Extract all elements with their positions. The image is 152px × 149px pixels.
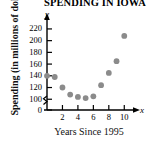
x-tick-label: 10 [117, 113, 131, 122]
x-tick-label: 8 [102, 113, 116, 122]
x-tick-label: 2 [55, 113, 69, 122]
x-tick-label: 4 [71, 113, 85, 122]
x-tick-label: 6 [86, 113, 100, 122]
chart-figure: SPENDING IN IOWA Spending (in millions o… [0, 0, 152, 149]
x-tick-labels: 246810 [0, 0, 152, 149]
